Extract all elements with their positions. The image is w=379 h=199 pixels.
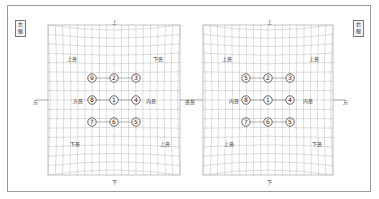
right-ml-label: 内鼻	[229, 97, 239, 104]
right-eye-label: 右眼	[353, 20, 364, 37]
right-bottom-label: 下	[267, 178, 272, 185]
svg-text:8: 8	[244, 96, 248, 103]
right-side-label: 方	[343, 98, 348, 105]
right-top-label: 上	[267, 18, 272, 25]
right-bl-label: 上鼻	[224, 140, 234, 147]
svg-text:7: 7	[244, 118, 248, 125]
right-tl-label: 上鼻	[222, 55, 232, 62]
svg-text:5: 5	[288, 118, 292, 125]
right-br-label: 下鼻	[312, 140, 322, 147]
svg-text:2: 2	[266, 74, 270, 81]
svg-text:4: 4	[288, 96, 292, 103]
svg-text:1: 1	[266, 96, 270, 103]
svg-text:6: 6	[266, 118, 270, 125]
right-tr-label: 上鼻	[309, 55, 319, 62]
svg-text:3: 3	[288, 74, 292, 81]
right-mr-label: 内鼻	[303, 97, 313, 104]
svg-text:5: 5	[244, 74, 248, 81]
right-eye-panel: 523814765 右眼 上 下 鼻 方 上鼻 上鼻 内鼻 内鼻 上鼻 下鼻	[0, 0, 379, 199]
right-left-label: 鼻	[190, 98, 195, 105]
